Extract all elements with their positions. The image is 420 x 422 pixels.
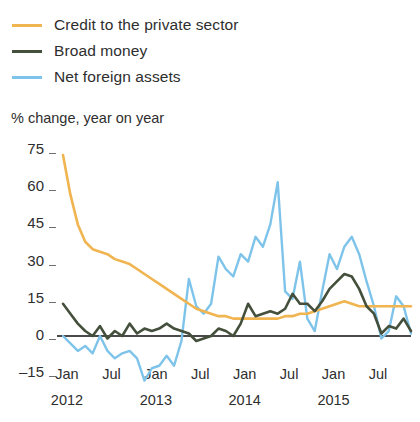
series-line-credit	[63, 155, 411, 319]
plot-area: 75604530150–15 Jan2012JulJan2013JulJan20…	[0, 0, 420, 422]
series-line-net-foreign-assets	[63, 182, 411, 380]
chart-svg	[0, 0, 420, 422]
chart-container: Credit to the private sector Broad money…	[0, 0, 420, 422]
